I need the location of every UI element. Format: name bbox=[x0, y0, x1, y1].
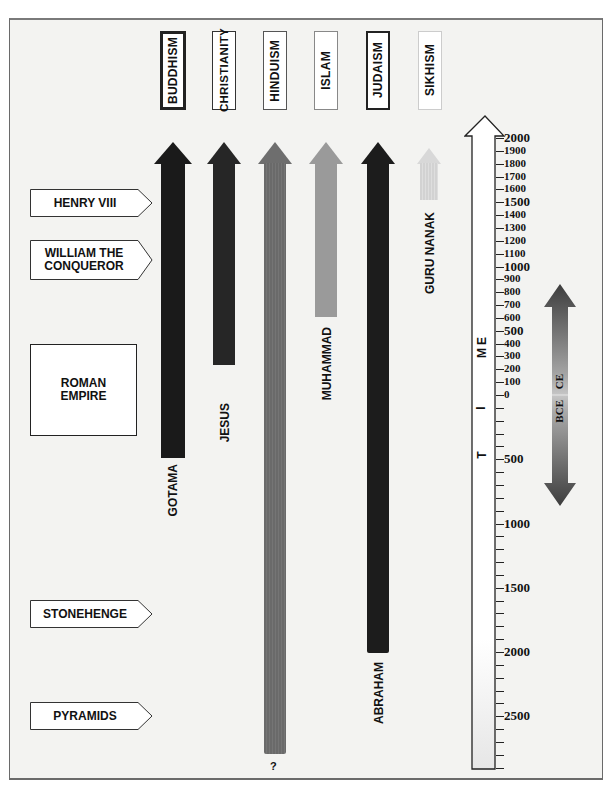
axis-tick bbox=[496, 356, 504, 357]
axis-tick-label: 1300 bbox=[504, 222, 526, 233]
axis-tick bbox=[496, 459, 504, 460]
axis-tick bbox=[496, 138, 504, 139]
axis-tick bbox=[496, 177, 504, 178]
axis-tick bbox=[496, 562, 504, 563]
arrowhead-icon bbox=[417, 148, 441, 164]
axis-tick-label: 1500 bbox=[504, 581, 530, 594]
event-label: STONEHENGE bbox=[30, 600, 140, 628]
time-letter: E bbox=[475, 337, 489, 345]
axis-tick-label: 1700 bbox=[504, 171, 526, 182]
axis-tick bbox=[496, 639, 504, 640]
axis-tick-label: 1900 bbox=[504, 145, 526, 156]
religion-label-sikhism: SIKHISM bbox=[418, 31, 442, 110]
axis-tick-label: 1100 bbox=[504, 248, 525, 259]
axis-tick bbox=[496, 267, 504, 268]
axis-tick bbox=[496, 421, 504, 422]
arrowhead-icon bbox=[207, 142, 241, 164]
axis-tick bbox=[496, 215, 504, 216]
event-tag-william-the-conqueror: WILLIAM THE CONQUEROR bbox=[30, 240, 153, 280]
axis-tick bbox=[496, 331, 504, 332]
axis-tick bbox=[496, 549, 504, 550]
axis-tick-label: 700 bbox=[504, 299, 521, 310]
axis-tick bbox=[496, 369, 504, 370]
event-label: PYRAMIDS bbox=[30, 702, 140, 730]
axis-tick bbox=[496, 626, 504, 627]
axis-tick bbox=[496, 305, 504, 306]
religion-name: BUDDHISM bbox=[166, 37, 180, 104]
religion-label-hinduism: HINDUISM bbox=[263, 31, 287, 110]
axis-tick-label: 1000 bbox=[504, 517, 530, 530]
arrowhead-icon bbox=[361, 142, 395, 164]
axis-tick bbox=[496, 228, 504, 229]
founder-label-unknown: ? bbox=[270, 760, 277, 772]
axis-tick-label: 600 bbox=[504, 312, 521, 323]
axis-tick bbox=[496, 292, 504, 293]
time-letter: M bbox=[475, 348, 489, 358]
axis-tick bbox=[496, 665, 504, 666]
axis-tick bbox=[496, 768, 504, 769]
axis-tick-label: 2000 bbox=[504, 131, 530, 144]
axis-tick bbox=[496, 536, 504, 537]
event-tag-henry-viii: HENRY VIII bbox=[30, 189, 153, 217]
religion-label-islam: ISLAM bbox=[314, 31, 338, 110]
event-tag-stonehenge: STONEHENGE bbox=[30, 600, 153, 628]
axis-tick-label: 2000 bbox=[504, 645, 530, 658]
founder-label-abraham: ABRAHAM bbox=[372, 662, 386, 724]
axis-tick bbox=[496, 703, 504, 704]
axis-tick-label: 0 bbox=[504, 389, 510, 400]
axis-tick bbox=[496, 691, 504, 692]
religion-name: JUDAISM bbox=[371, 42, 385, 98]
time-axis-arrow bbox=[464, 115, 506, 771]
time-letter: I bbox=[474, 406, 488, 409]
double-arrow-icon bbox=[542, 283, 578, 507]
axis-tick-label: 1500 bbox=[504, 195, 530, 208]
axis-tick bbox=[496, 344, 504, 345]
time-arrow-icon bbox=[464, 115, 506, 771]
judaism-bar bbox=[367, 163, 389, 653]
religion-name: SIKHISM bbox=[423, 44, 437, 96]
event-box-roman-empire: ROMAN EMPIRE bbox=[30, 344, 137, 436]
axis-tick bbox=[496, 395, 504, 396]
islam-bar bbox=[315, 163, 337, 317]
arrowhead-icon bbox=[154, 142, 192, 164]
axis-tick-label: 500 bbox=[504, 324, 524, 337]
founder-label-guru-nanak: GURU NANAK bbox=[423, 212, 437, 294]
axis-tick bbox=[496, 241, 504, 242]
religion-label-christianity: CHRISTIANITY bbox=[212, 31, 236, 110]
axis-tick bbox=[496, 511, 504, 512]
axis-tick bbox=[496, 164, 504, 165]
religion-name: ISLAM bbox=[319, 51, 333, 90]
axis-tick-label: 1200 bbox=[504, 235, 526, 246]
axis-tick bbox=[496, 652, 504, 653]
event-label: WILLIAM THE CONQUEROR bbox=[30, 240, 138, 280]
axis-tick bbox=[496, 202, 504, 203]
axis-tick bbox=[496, 755, 504, 756]
axis-tick bbox=[496, 716, 504, 717]
axis-tick-label: 100 bbox=[504, 376, 521, 387]
axis-tick bbox=[496, 254, 504, 255]
axis-tick bbox=[496, 151, 504, 152]
axis-tick-label: 900 bbox=[504, 273, 521, 284]
axis-tick bbox=[496, 601, 504, 602]
event-label-line: EMPIRE bbox=[60, 390, 106, 403]
founder-label-jesus: JESUS bbox=[218, 403, 232, 442]
time-letter: T bbox=[475, 451, 489, 458]
axis-tick bbox=[496, 408, 504, 409]
axis-tick bbox=[496, 279, 504, 280]
axis-tick bbox=[496, 588, 504, 589]
era-arrow bbox=[542, 283, 578, 507]
era-label-ce: CE bbox=[553, 374, 565, 389]
axis-tick-label: 1800 bbox=[504, 158, 526, 169]
axis-tick-label: 2500 bbox=[504, 709, 530, 722]
event-tag-pyramids: PYRAMIDS bbox=[30, 702, 153, 730]
axis-tick bbox=[496, 189, 504, 190]
axis-tick bbox=[496, 446, 504, 447]
axis-tick bbox=[496, 575, 504, 576]
religion-label-judaism: JUDAISM bbox=[366, 31, 390, 110]
axis-tick bbox=[496, 318, 504, 319]
arrowhead-icon bbox=[309, 142, 343, 164]
christianity-bar bbox=[213, 163, 235, 365]
axis-tick-label: 1600 bbox=[504, 183, 526, 194]
axis-tick bbox=[496, 485, 504, 486]
axis-tick bbox=[496, 524, 504, 525]
